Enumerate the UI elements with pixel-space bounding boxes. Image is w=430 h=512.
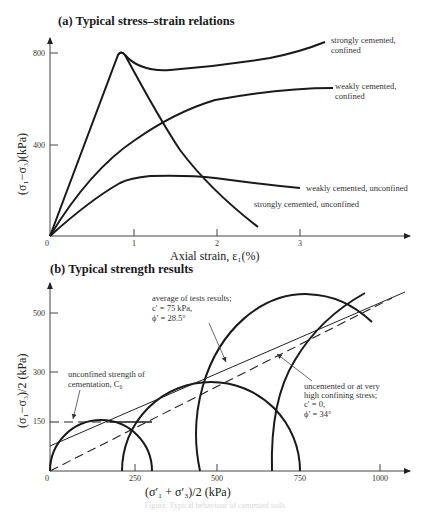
- panel-a-xtick: 0: [45, 239, 49, 248]
- panel-b-x-label: (σ′₁ + σ′₃)/2 (kPa): [145, 485, 231, 499]
- figure-caption: Figure: Typical behaviour of cemented so…: [145, 501, 286, 510]
- figure: (a) Typical stress–strain relations 800 …: [0, 0, 430, 512]
- panel-b-xtick: 500: [211, 474, 223, 483]
- ann-average: c′ = 75 kPa,: [152, 303, 192, 313]
- ann-uncemented: ϕ′ = 34°: [304, 409, 331, 419]
- panel-a-xtick: 2: [215, 239, 219, 248]
- label-weak-unconfined: weakly cemented, unconfined: [306, 183, 408, 193]
- panel-b-xtick: 750: [294, 474, 306, 483]
- panel-a-xtick: 3: [298, 239, 302, 248]
- panel-b-ytick: 500: [33, 309, 45, 318]
- panel-a-y-label: (σ₁−σ₃)(kPa): [15, 133, 29, 195]
- label-strong-confined: strongly cemented,: [331, 35, 396, 45]
- panel-b-ytick: 150: [33, 417, 45, 426]
- label-strong-confined: confined: [331, 45, 361, 55]
- ann-average: ϕ′ = 28.5°: [152, 313, 186, 323]
- curve-strongly-cemented-unconfined: [118, 53, 258, 228]
- panel-b-ytick: 300: [33, 368, 45, 377]
- panel-a-xtick: 1: [132, 239, 136, 248]
- arrow-uncemented: [277, 354, 312, 381]
- ann-average: average of tests results;: [152, 293, 232, 303]
- panel-b-y-label: (σ₁−σ₃)/2 (kPa): [15, 354, 29, 428]
- panel-a-stress-strain: (a) Typical stress–strain relations 800 …: [15, 14, 410, 263]
- arrow-unconfined: [73, 390, 80, 419]
- panel-a-x-label: Axial strain, ε₁(%): [170, 249, 260, 263]
- panel-b-xtick: 1000: [372, 474, 388, 483]
- panel-b-xtick: 250: [129, 474, 141, 483]
- panel-b-xtick: 0: [45, 474, 49, 483]
- ann-unconfined: unconfined strength of: [68, 369, 145, 379]
- label-weak-confined: confined: [335, 91, 365, 101]
- panel-a-ytick: 800: [33, 49, 45, 58]
- curve-weakly-cemented-confined: [50, 88, 333, 236]
- ann-uncemented: c′ = 0,: [304, 399, 325, 409]
- ann-unconfined: cementation, C₀: [68, 379, 122, 389]
- panel-b-strength: (b) Typical strength results 500 300 150…: [15, 262, 410, 499]
- panel-b-title: (b) Typical strength results: [50, 262, 193, 276]
- label-weak-confined: weakly cemented,: [335, 81, 396, 91]
- panel-a-ytick: 400: [33, 141, 45, 150]
- panel-a-title: (a) Typical stress–strain relations: [58, 14, 235, 28]
- label-strong-unconfined: strongly cemented, unconfined: [254, 199, 360, 209]
